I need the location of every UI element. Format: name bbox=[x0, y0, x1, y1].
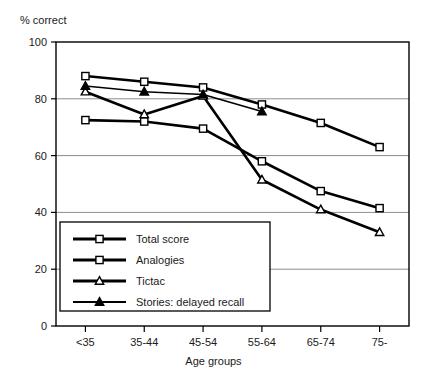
series-line bbox=[85, 92, 379, 233]
chart-plot-svg: 020406080100 <3535-4445-5455-6465-7475- … bbox=[0, 0, 427, 389]
legend-label: Tictac bbox=[136, 275, 165, 287]
x-axis-title: Age groups bbox=[0, 355, 427, 367]
y-tick-label: 0 bbox=[41, 320, 47, 332]
y-axis-ticks: 020406080100 bbox=[29, 36, 56, 332]
marker-open-square bbox=[96, 235, 103, 242]
marker-filled-triangle bbox=[81, 81, 90, 89]
data-series-group bbox=[81, 72, 384, 235]
marker-open-square bbox=[258, 158, 265, 165]
y-tick-label: 100 bbox=[29, 36, 47, 48]
marker-open-square bbox=[141, 78, 148, 85]
legend-label: Analogies bbox=[136, 254, 185, 266]
legend-label: Total score bbox=[136, 233, 189, 245]
y-tick-label: 60 bbox=[35, 150, 47, 162]
marker-open-square bbox=[82, 72, 89, 79]
legend-label: Stories: delayed recall bbox=[136, 296, 244, 308]
x-tick-label: <35 bbox=[76, 336, 95, 348]
y-tick-label: 20 bbox=[35, 263, 47, 275]
series-tictac bbox=[81, 87, 384, 235]
x-tick-label: 55-64 bbox=[248, 336, 276, 348]
marker-open-square bbox=[376, 143, 383, 150]
marker-open-square bbox=[199, 125, 206, 132]
marker-open-square bbox=[82, 117, 89, 124]
x-axis-ticks: <3535-4445-5455-6465-7475- bbox=[76, 326, 388, 348]
marker-open-square bbox=[96, 256, 103, 263]
x-tick-label: 75- bbox=[372, 336, 388, 348]
y-tick-label: 40 bbox=[35, 206, 47, 218]
series-line bbox=[85, 120, 379, 208]
legend-box: Total scoreAnalogiesTictacStories: delay… bbox=[60, 222, 270, 311]
chart-container: % correct 020406080100 <3535-4445-5455-6… bbox=[0, 0, 427, 389]
y-tick-label: 80 bbox=[35, 93, 47, 105]
x-tick-label: 45-54 bbox=[189, 336, 217, 348]
x-tick-label: 65-74 bbox=[307, 336, 335, 348]
marker-open-square bbox=[317, 119, 324, 126]
marker-open-square bbox=[141, 118, 148, 125]
marker-open-square bbox=[376, 205, 383, 212]
marker-open-square bbox=[317, 188, 324, 195]
x-tick-label: 35-44 bbox=[130, 336, 158, 348]
